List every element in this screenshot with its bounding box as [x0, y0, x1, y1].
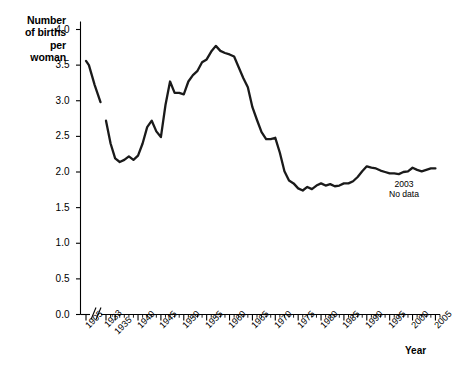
- y-tick-label: 1.0: [44, 238, 70, 248]
- data-line: [106, 46, 435, 191]
- y-tick-label: 1.5: [44, 203, 70, 213]
- data-line: [86, 61, 101, 102]
- x-axis-title: Year: [405, 345, 426, 356]
- no-data-annotation: 2003 No data: [378, 180, 430, 199]
- y-tick-label: 0.5: [44, 274, 70, 284]
- y-axis-title: Number of births per woman: [2, 14, 66, 64]
- y-tick-label: 4.0: [44, 25, 70, 35]
- y-tick-label: 2.5: [44, 131, 70, 141]
- y-tick-label: 3.5: [44, 60, 70, 70]
- y-axis: [76, 22, 81, 315]
- data-series-group: [86, 46, 435, 191]
- y-tick-label: 0.0: [44, 310, 70, 320]
- y-tick-label: 3.0: [44, 96, 70, 106]
- y-tick-label: 2.0: [44, 167, 70, 177]
